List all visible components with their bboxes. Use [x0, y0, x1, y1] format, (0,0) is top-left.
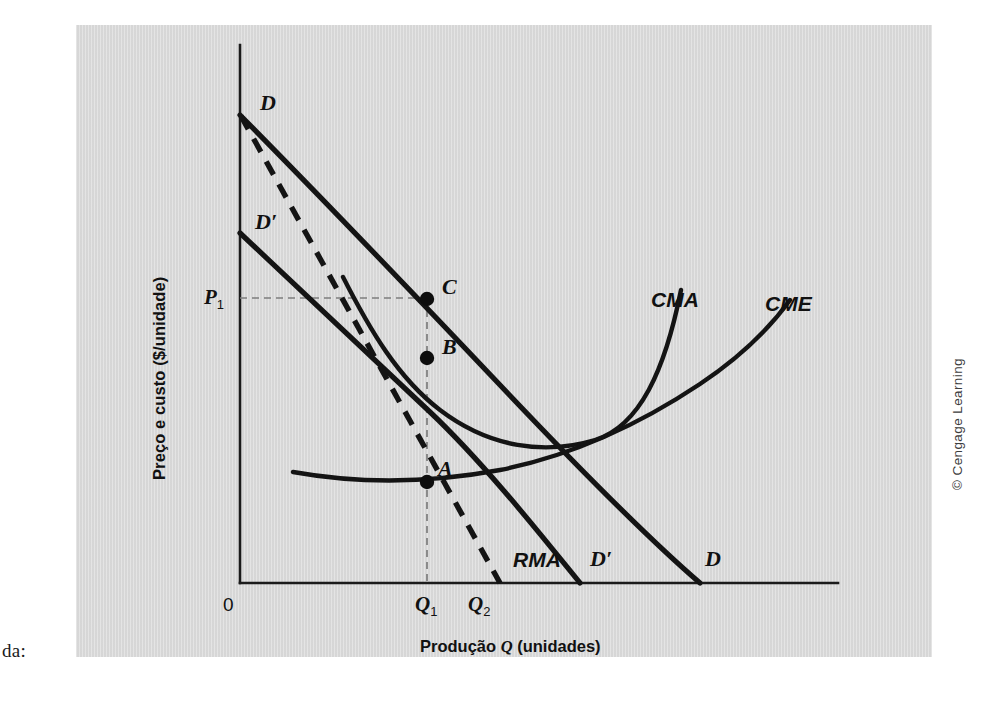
y-tick-p1-var: P [204, 285, 217, 309]
curve-d [240, 115, 700, 583]
label-rma: RMA [513, 548, 561, 572]
x-tick-q1-sub: 1 [430, 604, 437, 619]
label-cme: CME [765, 292, 812, 316]
x-axis-title: Produção Q (unidades) [420, 637, 601, 657]
label-point-c: C [442, 274, 457, 300]
x-tick-q1-var: Q [415, 592, 430, 616]
label-point-b: B [442, 334, 457, 360]
point-a-marker [420, 475, 434, 489]
label-d-prime-bottom: D′ [590, 546, 612, 572]
copyright-notice: © Cengage Learning [950, 310, 965, 490]
x-tick-q2-sub: 2 [483, 604, 490, 619]
curve-cma [343, 277, 681, 447]
origin-tick: 0 [223, 594, 234, 616]
label-d-prime-top: D′ [255, 209, 277, 235]
point-c-marker [420, 292, 434, 306]
x-tick-q1: Q1 [415, 592, 437, 619]
y-tick-p1-sub: 1 [217, 297, 224, 312]
figure-page: D D′ D D′ RMA CMA CME C B A P1 0 Q1 Q2 P… [0, 0, 1002, 709]
y-tick-p1: P1 [204, 285, 224, 312]
y-axis-title: Preço e custo ($/unidade) [150, 277, 169, 480]
label-d-bottom: D [705, 546, 721, 572]
point-b-marker [420, 351, 434, 365]
curve-d-prime [240, 233, 580, 583]
x-tick-q2: Q2 [468, 592, 490, 619]
x-axis-title-suffix: (unidades) [513, 637, 601, 655]
x-axis-title-var: Q [501, 637, 513, 656]
x-axis-title-prefix: Produção [420, 637, 501, 655]
label-point-a: A [438, 456, 453, 482]
margin-note-text: da: [2, 640, 26, 662]
x-tick-q2-var: Q [468, 592, 483, 616]
curve-rma [241, 116, 500, 583]
label-cma: CMA [651, 288, 699, 312]
curve-cme [293, 300, 790, 480]
label-d-top: D [260, 90, 276, 116]
